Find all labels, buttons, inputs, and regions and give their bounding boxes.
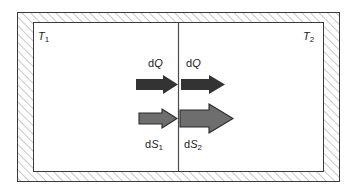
label-dq2-symbol: Q bbox=[192, 57, 201, 69]
label-heat-right: dQ bbox=[186, 58, 201, 69]
diagram-canvas bbox=[0, 0, 357, 193]
label-heat-left: dQ bbox=[148, 58, 163, 69]
label-t1-subscript: 1 bbox=[45, 35, 49, 44]
label-dq1-symbol: Q bbox=[154, 57, 163, 69]
label-ds1-subscript: 1 bbox=[158, 143, 162, 152]
label-t2-symbol: T bbox=[303, 30, 310, 42]
label-temperature-left: T1 bbox=[38, 31, 49, 42]
label-t2-subscript: 2 bbox=[310, 35, 314, 44]
label-ds2-subscript: 2 bbox=[197, 143, 201, 152]
thermodynamics-diagram: T1 T2 dQ dQ dS1 dS2 bbox=[0, 0, 357, 193]
label-temperature-right: T2 bbox=[303, 31, 314, 42]
label-entropy-left: dS1 bbox=[145, 139, 163, 150]
label-entropy-right: dS2 bbox=[184, 139, 202, 150]
label-t1-symbol: T bbox=[38, 30, 45, 42]
